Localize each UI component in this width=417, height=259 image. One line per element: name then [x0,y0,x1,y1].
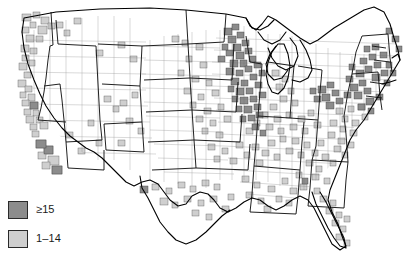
legend-swatch-high [8,201,28,219]
legend-label-low: 1–14 [36,233,61,244]
choropleth-map-figure: ≥15 1–14 [0,0,417,259]
counties-class-high [30,24,402,193]
legend-label-high: ≥15 [36,204,55,215]
legend-swatch-low [8,230,28,248]
legend-row-low: 1–14 [8,229,94,248]
legend-row-high: ≥15 [8,200,94,219]
map-legend: ≥15 1–14 [8,200,94,248]
